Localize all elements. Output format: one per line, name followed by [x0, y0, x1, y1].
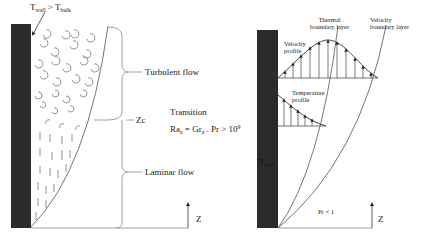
critical-height-label: Zc	[136, 116, 146, 125]
z-axis-label-right: Z	[378, 215, 384, 224]
temperature-profile-label: Temperatureprofile	[292, 89, 325, 103]
velocity-boundary-layer-curve	[278, 26, 386, 228]
right-wall-temperature-label: Twall	[259, 158, 275, 170]
rayleigh-criterion: Raz = Grz . Pr > 109	[170, 123, 241, 137]
turbulent-eddies	[35, 30, 99, 130]
velocity-profile-label: Velocityprofile	[284, 40, 306, 54]
thermal-boundary-layer-label: Thermalboundary layer	[310, 16, 349, 30]
laminar-flow-label: Laminar flow	[145, 168, 194, 177]
transition-label: Transition	[170, 108, 207, 117]
heated-wall-right	[257, 30, 278, 228]
thermal-boundary-layer-curve	[278, 26, 338, 228]
velocity-boundary-layer-label: Velocityboundary layer	[370, 16, 409, 30]
wall-label-pointer	[33, 12, 45, 34]
z-axis-label-left: Z	[196, 215, 202, 224]
region-braces	[94, 27, 142, 228]
heated-wall-left	[11, 24, 31, 228]
diagram-canvas	[0, 0, 425, 236]
wall-temperature-label: Twall > Tbulk	[30, 3, 71, 15]
prandtl-note: Pr < 1	[318, 208, 334, 215]
turbulent-flow-label: Turbulent flow	[145, 68, 199, 77]
boundary-layer-curve-left	[31, 26, 108, 227]
